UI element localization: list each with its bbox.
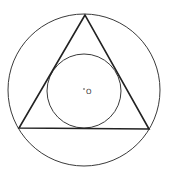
geometry-diagram: O — [0, 0, 170, 180]
inscribed-circle — [47, 54, 121, 128]
center-point — [83, 88, 85, 90]
center-label: O — [86, 88, 92, 96]
circumscribed-circle — [8, 14, 160, 166]
equilateral-triangle — [19, 15, 149, 129]
